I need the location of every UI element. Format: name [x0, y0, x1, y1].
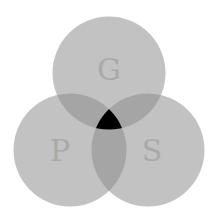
venn-svg: G P S [0, 0, 215, 224]
label-p: P [50, 133, 70, 168]
label-g: G [97, 52, 121, 87]
label-s: S [142, 133, 163, 168]
venn-diagram: G P S [0, 0, 215, 224]
